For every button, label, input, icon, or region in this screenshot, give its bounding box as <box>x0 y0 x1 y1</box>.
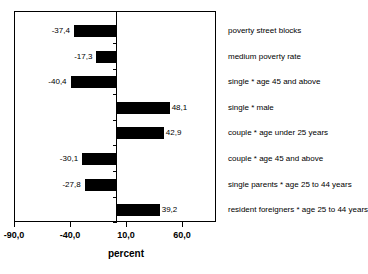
bar-value-label: -37,4 <box>47 26 70 35</box>
zero-axis-tick <box>113 69 117 70</box>
category-label: resident foreigners * age 25 to 44 years <box>228 205 368 214</box>
x-axis-tick <box>14 222 15 227</box>
bar-value-label: 42,9 <box>166 128 182 137</box>
zero-axis-tick <box>113 94 117 95</box>
bar <box>96 51 115 63</box>
category-label: single * male <box>228 103 274 112</box>
category-label: single parents * age 25 to 44 years <box>228 180 352 189</box>
bar <box>74 25 116 37</box>
zero-axis-tick <box>113 120 117 121</box>
bar <box>85 179 116 191</box>
category-label: couple * age under 25 years <box>228 128 328 137</box>
bar-value-label: -27,8 <box>58 180 81 189</box>
bar <box>71 76 116 88</box>
bar-value-label: 39,2 <box>162 205 178 214</box>
bar-value-label: -40,4 <box>44 77 67 86</box>
x-axis-tick-label: 60,0 <box>173 230 191 240</box>
x-axis-tick <box>182 222 183 227</box>
category-label: couple * age 45 and above <box>228 154 323 163</box>
x-axis-tick-label: -90,0 <box>4 230 25 240</box>
x-axis-tick-label: 10,0 <box>117 230 135 240</box>
x-axis-tick <box>70 222 71 227</box>
bar-value-label: -17,3 <box>69 52 92 61</box>
x-axis-tick <box>126 222 127 227</box>
x-axis-tick-label: -40,0 <box>60 230 81 240</box>
bar-value-label: 48,1 <box>172 103 188 112</box>
bar <box>116 127 164 139</box>
zero-axis-tick <box>113 222 117 223</box>
zero-axis-tick <box>113 197 117 198</box>
bar <box>116 102 170 114</box>
bar-value-label: -30,1 <box>55 154 78 163</box>
bar <box>116 204 160 216</box>
zero-axis-tick <box>113 43 117 44</box>
category-label: medium poverty rate <box>228 52 301 61</box>
x-axis-title: percent <box>108 248 144 259</box>
category-label: single * age 45 and above <box>228 77 321 86</box>
zero-axis-tick <box>113 145 117 146</box>
zero-axis-tick <box>113 171 117 172</box>
bar <box>82 153 116 165</box>
plot-area <box>14 11 216 222</box>
category-label: poverty street blocks <box>228 26 301 35</box>
